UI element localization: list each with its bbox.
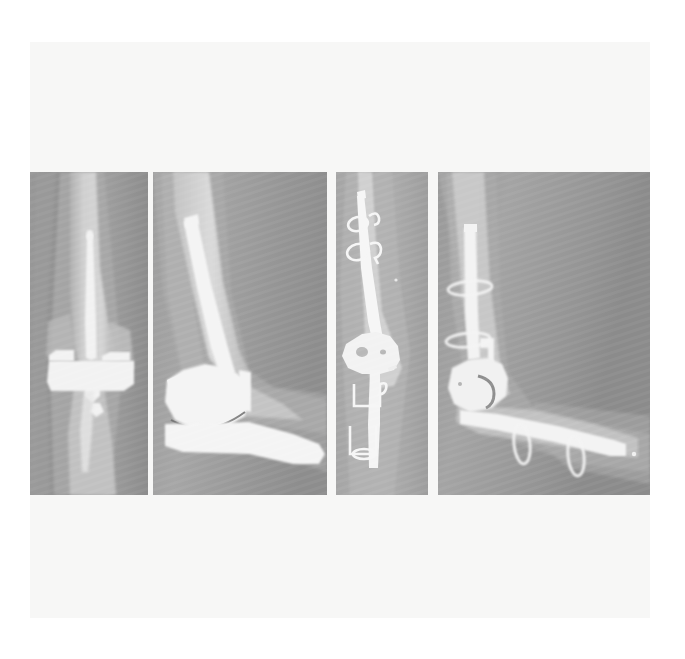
xray-panel-4[interactable] bbox=[438, 172, 650, 495]
xray-panel-3[interactable] bbox=[336, 172, 428, 495]
xray-panel-1[interactable] bbox=[30, 172, 148, 495]
radiograph-panel-strip bbox=[30, 172, 650, 495]
xray-panel-2[interactable] bbox=[153, 172, 327, 495]
xray-image-2 bbox=[153, 172, 327, 495]
xray-image-3 bbox=[336, 172, 428, 495]
xray-image-4 bbox=[438, 172, 650, 495]
figure-page: radiograph-figure elbow total elbow arth… bbox=[30, 42, 650, 618]
xray-image-1 bbox=[30, 172, 148, 495]
